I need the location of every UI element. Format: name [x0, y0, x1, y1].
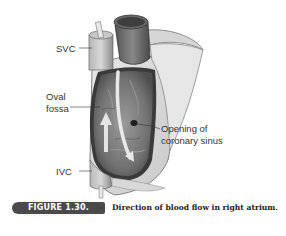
- right-atrium-illustration: [0, 0, 286, 236]
- coronary-sinus-label-line2: coronary sinus: [161, 135, 223, 146]
- oval-fossa-label-line2: fossa: [46, 103, 69, 114]
- coronary-sinus-label-line1: Opening of: [161, 123, 207, 134]
- figure-caption: Direction of blood flow in right atrium.: [112, 202, 278, 214]
- atrium-interior: [90, 67, 156, 180]
- ivc-label: IVC: [56, 166, 72, 177]
- oval-fossa-label-line1: Oval: [46, 91, 66, 102]
- aorta-vessel: [114, 15, 150, 64]
- svc-label: SVC: [56, 43, 76, 54]
- svc-vessel: [89, 22, 113, 70]
- figure-number-badge: FIGURE 1.30.: [12, 202, 105, 214]
